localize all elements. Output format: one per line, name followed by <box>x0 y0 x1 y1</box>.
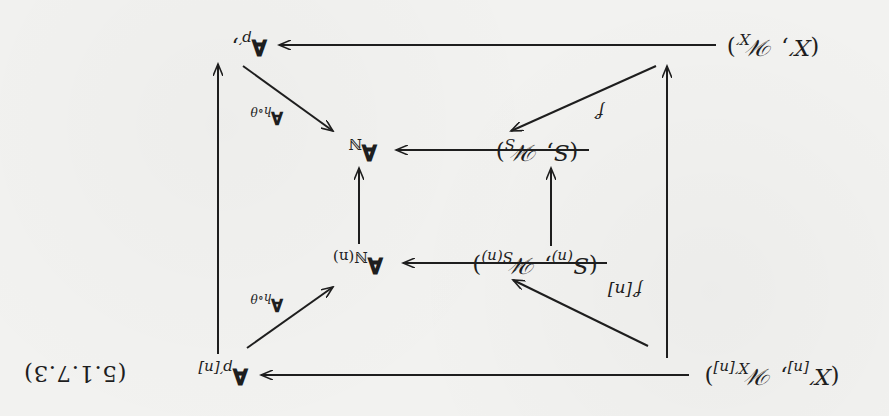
node-x-prime: (X′, 𝒲X′) <box>727 31 819 59</box>
subscript-s: S <box>505 135 515 153</box>
symbol-script-w: 𝒲 <box>749 364 773 390</box>
paren-open: ( <box>831 364 840 390</box>
trailing-comma: , <box>231 35 238 61</box>
symbol-s: S <box>573 253 589 279</box>
symbol-bold-a: 𝐀 <box>271 108 283 128</box>
symbol-x-prime: X′ <box>809 364 831 390</box>
subscript-s-n: S(n) <box>481 248 513 266</box>
node-a-n-n: 𝐀ℕ(n) <box>333 249 383 277</box>
symbol-bold-a: 𝐀 <box>252 35 267 60</box>
node-a-p-prime: 𝐀p′, <box>231 31 266 59</box>
separator: , <box>539 140 554 166</box>
subscript-n-n: ℕ(n) <box>333 248 368 266</box>
symbol-bold-a: 𝐀 <box>362 140 377 165</box>
node-a-p-prime-n: 𝐀p′[n] <box>198 360 247 388</box>
symbol-script-w: 𝒲 <box>750 35 774 61</box>
node-s: (S, 𝒲S) <box>496 136 579 164</box>
node-a-n: 𝐀ℕ <box>349 136 378 164</box>
paren-open: ( <box>589 253 598 279</box>
separator: , <box>774 35 789 61</box>
book-page: (X′[n], 𝒲X′[n]) 𝐀p′[n] (5.1.7.3) (S(n), … <box>0 0 889 416</box>
equation-number: (5.1.7.3) <box>24 361 127 387</box>
subscript-n: [n] <box>788 359 809 377</box>
subscript-naturals: ℕ <box>349 135 363 153</box>
subscript-n: (n) <box>552 248 573 266</box>
symbol-bold-a: 𝐀 <box>233 364 248 389</box>
paren-close: ) <box>496 140 505 166</box>
paren-close: ) <box>727 35 736 61</box>
subscript-p-prime: p′ <box>239 30 252 48</box>
label-f-prime-n: f′[n] <box>608 280 642 300</box>
paren-close: ) <box>472 253 481 279</box>
symbol-script-w: 𝒲 <box>513 253 537 279</box>
subscript-p-prime-n: p′[n] <box>198 359 232 377</box>
symbol-s: S <box>554 140 570 166</box>
separator: , <box>773 364 788 390</box>
node-x-prime-n: (X′[n], 𝒲X′[n]) <box>704 360 839 388</box>
symbol-bold-a: 𝐀 <box>368 253 383 278</box>
paren-open: ( <box>569 140 578 166</box>
symbol-script-w: 𝒲 <box>515 140 539 166</box>
subscript-h-theta: h∘θ <box>251 291 272 305</box>
subscript-h-theta: h∘θ <box>251 104 272 118</box>
label-a-h-theta-top: 𝐀h∘θ <box>251 291 284 315</box>
symbol-x-prime: X′ <box>789 35 811 61</box>
subscript-x-prime: X′ <box>736 30 750 48</box>
arrow-f-prime <box>511 66 656 131</box>
label-f-prime: f′ <box>594 102 604 122</box>
subscript-x-prime-n: X′[n] <box>713 359 748 377</box>
label-a-h-theta-bottom: 𝐀h∘θ <box>251 104 284 128</box>
paren-close: ) <box>704 364 713 390</box>
symbol-bold-a: 𝐀 <box>271 295 283 315</box>
separator: , <box>537 253 552 279</box>
paren-open: ( <box>810 35 819 61</box>
diagram-arrows <box>0 0 889 416</box>
node-s-n: (S(n), 𝒲S(n)) <box>472 249 597 277</box>
